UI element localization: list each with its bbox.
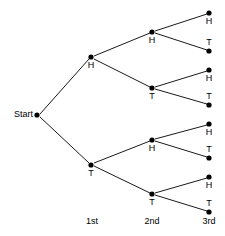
tree-node-label: H [206,73,213,83]
tree-node-label: T [88,168,94,178]
stage-label-3rd: 3rd [202,216,215,226]
branch-line [94,141,150,163]
start-label: Start [14,109,34,119]
tree-node-dot [206,102,211,107]
branch-line [40,117,89,163]
tree-node-label: H [149,143,156,153]
tree-node-label: T [206,37,212,47]
branch-line [155,195,207,211]
branch-line [155,33,207,50]
tree-node-dot [206,10,211,15]
branch-lines-group [40,14,207,211]
branch-line [155,89,207,104]
tree-node-label: T [206,144,212,154]
node-labels-group: HTHTHTHTHTHTHTStart [14,16,212,208]
tree-node-dot [206,209,211,214]
stage-label-2nd: 2nd [144,216,159,226]
branch-line [155,125,207,139]
tree-node-label: T [149,197,155,207]
branch-line [94,59,150,87]
branch-line [155,71,207,87]
branch-line [40,59,89,114]
tree-node-dot [206,121,211,126]
tree-node-label: T [149,91,155,101]
branch-line [94,166,150,193]
stage-labels-group: 1st2nd3rd [86,216,216,226]
tree-node-dot [149,137,154,142]
tree-node-label: H [206,16,213,26]
tree-node-label: H [88,60,95,70]
branch-line [155,178,207,193]
start-node-dot [34,112,39,117]
tree-node-dot [206,155,211,160]
branch-line [155,141,207,157]
branch-line [94,33,150,56]
tree-node-dot [206,48,211,53]
tree-node-label: T [206,198,212,208]
stage-label-1st: 1st [86,216,99,226]
tree-node-label: H [206,180,213,190]
tree-node-dot [88,54,93,59]
tree-node-label: T [206,91,212,101]
tree-node-dot [149,191,154,196]
tree-node-dot [206,174,211,179]
tree-node-dot [149,29,154,34]
tree-node-dot [206,67,211,72]
tree-node-dot [88,162,93,167]
tree-node-dot [149,85,154,90]
coin-flip-tree-diagram: HTHTHTHTHTHTHTStart 1st2nd3rd [0,0,225,236]
tree-node-label: H [149,35,156,45]
branch-line [155,14,207,31]
tree-diagram-canvas: HTHTHTHTHTHTHTStart 1st2nd3rd [0,0,225,236]
tree-node-label: H [206,127,213,137]
